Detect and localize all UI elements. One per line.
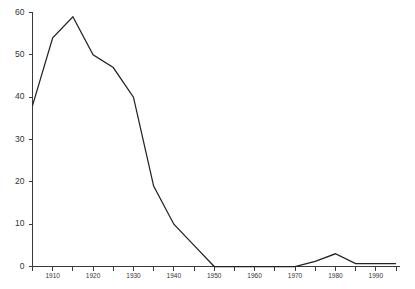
y-tick-label: 0 <box>20 261 25 271</box>
y-tick-labels: 0102030405060 <box>15 7 25 271</box>
y-tick-label: 50 <box>15 49 25 59</box>
y-tick-label: 30 <box>15 134 25 144</box>
y-tick-label: 60 <box>15 7 25 17</box>
x-tick-label: 1980 <box>328 272 343 279</box>
x-tick-label: 1910 <box>45 272 60 279</box>
axis-layer <box>33 13 401 267</box>
x-tick-labels: 191019201930194019501960197019801990 <box>45 272 383 279</box>
x-tick-label: 1970 <box>288 272 303 279</box>
x-tick-label: 1930 <box>126 272 141 279</box>
tick-layer <box>29 13 397 271</box>
data-series-line <box>33 17 396 267</box>
y-tick-label: 20 <box>15 176 25 186</box>
x-tick-label: 1960 <box>247 272 262 279</box>
series-layer <box>33 17 396 267</box>
x-tick-label: 1920 <box>86 272 101 279</box>
x-tick-label: 1940 <box>167 272 182 279</box>
chart-plot-area: 0102030405060 19101920193019401950196019… <box>0 0 415 289</box>
y-tick-label: 10 <box>15 218 25 228</box>
y-tick-label: 40 <box>15 91 25 101</box>
x-tick-label: 1950 <box>207 272 222 279</box>
x-tick-label: 1990 <box>369 272 384 279</box>
line-chart: 0102030405060 19101920193019401950196019… <box>0 0 415 289</box>
